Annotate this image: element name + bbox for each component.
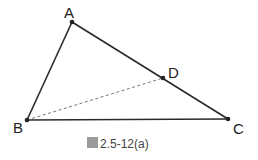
vertex-b: [25, 118, 30, 123]
figure-caption: 2.5-12(a): [100, 137, 149, 151]
segment-bc: [27, 119, 228, 120]
caption-figure-glyph-icon: [87, 137, 98, 148]
label-c: C: [233, 120, 244, 137]
segment-ab: [27, 22, 72, 120]
label-a: A: [64, 4, 74, 21]
label-b: B: [13, 119, 23, 136]
vertex-c: [226, 117, 231, 122]
triangle-diagram: A B C D 2.5-12(a): [0, 0, 258, 160]
label-d: D: [168, 64, 179, 81]
segment-bd-dashed: [27, 78, 163, 120]
vertex-d: [161, 76, 166, 81]
segment-ac: [72, 22, 228, 119]
